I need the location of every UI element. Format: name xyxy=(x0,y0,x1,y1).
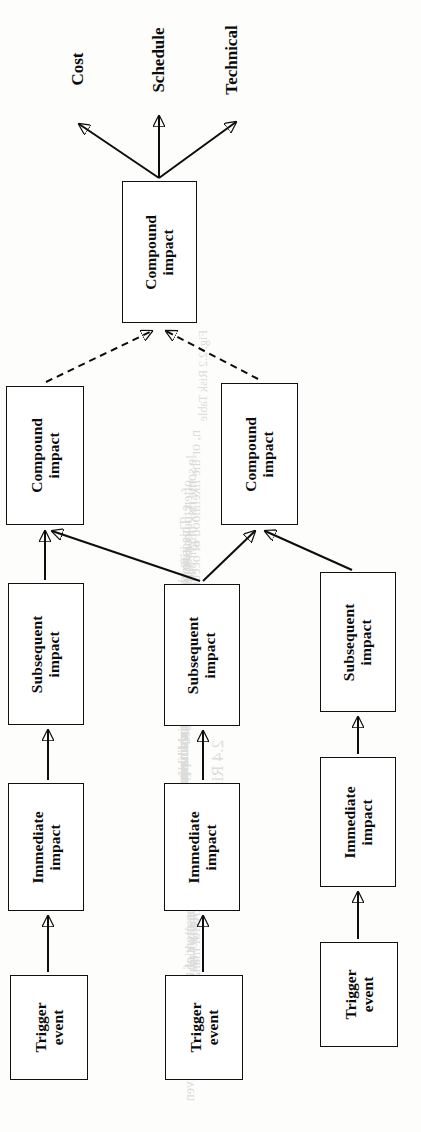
node-label-line1: Immediate xyxy=(185,811,202,883)
node-label-line2: impact xyxy=(202,616,219,694)
node-label: Immediateimpact xyxy=(341,786,376,858)
node-label-line1: Compound xyxy=(242,417,259,492)
outcome-label-cost: Cost xyxy=(58,34,98,104)
node-immediate-3: Immediateimpact xyxy=(320,757,396,887)
node-label-line1: Trigger xyxy=(342,969,359,1019)
node-label-line2: event xyxy=(49,1002,66,1052)
node-label: Immediateimpact xyxy=(29,811,64,883)
node-label: Subsequentimpact xyxy=(29,615,64,693)
node-subsequent-3: Subsequentimpact xyxy=(320,572,396,712)
node-label-line1: Immediate xyxy=(29,811,46,883)
node-label-line1: Trigger xyxy=(187,1002,204,1052)
node-label: Triggerevent xyxy=(187,1002,222,1052)
node-label-line2: impact xyxy=(202,811,219,883)
outcome-label-text: Cost xyxy=(68,52,88,85)
node-label-line2: event xyxy=(359,969,376,1019)
node-immediate-2: Immediateimpact xyxy=(164,783,240,911)
node-label-line2: impact xyxy=(259,417,276,492)
node-compound-left: Compoundimpact xyxy=(6,386,84,525)
node-trigger-3: Triggerevent xyxy=(320,942,398,1047)
node-label-line1: Subsequent xyxy=(341,603,358,681)
node-label-line1: Compound xyxy=(142,215,159,290)
node-label-line1: Compound xyxy=(28,418,45,493)
node-label-line2: event xyxy=(204,1002,221,1052)
node-label-line2: impact xyxy=(358,786,375,858)
node-trigger-2: Triggerevent xyxy=(165,975,243,1080)
outcome-label-schedule: Schedule xyxy=(132,10,186,110)
node-label: Subsequentimpact xyxy=(185,616,220,694)
node-subsequent-2: Subsequentimpact xyxy=(164,584,240,726)
node-subsequent-1: Subsequentimpact xyxy=(8,583,84,725)
impact-cascade-diagram: CompoundimpactCompoundimpactCompoundimpa… xyxy=(0,0,421,1132)
node-label-line2: impact xyxy=(160,215,177,290)
node-label-line2: impact xyxy=(45,418,62,493)
node-label: Compoundimpact xyxy=(142,215,177,290)
node-label: Immediateimpact xyxy=(185,811,220,883)
node-label: Compoundimpact xyxy=(28,418,63,493)
node-label: Subsequentimpact xyxy=(341,603,376,681)
outcome-label-text: Technical xyxy=(222,25,242,94)
node-label-line2: impact xyxy=(46,811,63,883)
node-compound-right: Compoundimpact xyxy=(221,383,298,525)
node-label-line1: Subsequent xyxy=(185,616,202,694)
scanned-page-canvas: Fig. 2.2 Risk Tablen, or the likelihood … xyxy=(0,0,421,1132)
node-label: Triggerevent xyxy=(342,969,377,1019)
node-label-line1: Subsequent xyxy=(29,615,46,693)
node-label-line2: impact xyxy=(358,603,375,681)
node-label-line1: Trigger xyxy=(32,1002,49,1052)
outcome-label-text: Schedule xyxy=(149,27,169,92)
node-compound-top: Compoundimpact xyxy=(122,181,197,323)
node-label: Triggerevent xyxy=(32,1002,67,1052)
node-trigger-1: Triggerevent xyxy=(10,975,88,1080)
node-label-line2: impact xyxy=(46,615,63,693)
node-label: Compoundimpact xyxy=(242,417,277,492)
node-immediate-1: Immediateimpact xyxy=(8,783,84,911)
node-label-line1: Immediate xyxy=(341,786,358,858)
outcome-label-technical: Technical xyxy=(205,8,259,112)
